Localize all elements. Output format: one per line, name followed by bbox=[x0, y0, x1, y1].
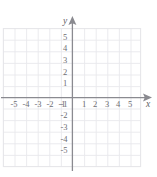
y-tick-label: -1 bbox=[58, 100, 70, 109]
x-tick-label: 3 bbox=[102, 100, 112, 109]
x-tick-label: 5 bbox=[125, 100, 135, 109]
y-axis-label: y bbox=[63, 17, 67, 27]
x-tick-label: -4 bbox=[20, 100, 32, 109]
y-tick-label: 4 bbox=[60, 44, 70, 53]
x-tick-label: 4 bbox=[113, 100, 123, 109]
y-tick-label: 5 bbox=[60, 33, 70, 42]
y-tick-label: -5 bbox=[58, 146, 70, 155]
y-tick-label: -4 bbox=[58, 135, 70, 144]
y-tick-label: 2 bbox=[60, 68, 70, 77]
y-tick-label: -2 bbox=[58, 111, 70, 120]
x-tick-label: -3 bbox=[32, 100, 44, 109]
coordinate-plane bbox=[0, 0, 157, 177]
y-tick-label: 3 bbox=[60, 56, 70, 65]
x-tick-label: -2 bbox=[44, 100, 56, 109]
x-axis-label: x bbox=[146, 100, 150, 110]
x-tick-label: 2 bbox=[90, 100, 100, 109]
coordinate-graph-figure: -5 -4 -3 -2 -1 1 2 3 4 5 5 4 3 2 1 -1 -2… bbox=[0, 0, 157, 177]
y-tick-label: 1 bbox=[60, 79, 70, 88]
x-tick-label: -5 bbox=[8, 100, 20, 109]
y-tick-label: -3 bbox=[58, 123, 70, 132]
x-tick-label: 1 bbox=[79, 100, 89, 109]
